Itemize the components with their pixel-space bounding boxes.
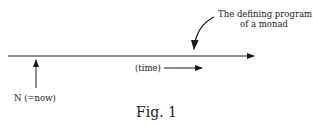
annotation-curved-arrow <box>194 17 214 49</box>
time-label: (time) <box>135 63 161 73</box>
annotation-line-2: of a monad <box>218 19 310 29</box>
figure-caption: Fig. 1 <box>136 104 177 120</box>
now-label: N (=now) <box>14 93 56 103</box>
annotation-line-1: The defining program <box>218 9 310 19</box>
annotation-text: The defining program of a monad <box>218 9 310 29</box>
